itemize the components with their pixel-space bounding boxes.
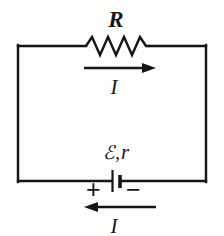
terminal-negative-label: −	[126, 177, 141, 202]
emf-symbol: ℰ	[103, 141, 116, 163]
current-label-top: I	[0, 77, 224, 98]
resistor-zigzag	[86, 37, 150, 55]
emf-label-group: ℰ,r	[0, 142, 224, 163]
resistor-label: R	[0, 8, 224, 31]
circuit-svg	[0, 0, 224, 236]
internal-resistance-label: r	[121, 140, 129, 164]
circuit-diagram-figure: R I ℰ,r + − I	[0, 0, 224, 236]
current-arrow-bottom	[84, 202, 156, 212]
current-label-bottom: I	[0, 216, 224, 236]
current-arrow-top	[84, 63, 156, 73]
terminal-positive-label: +	[86, 177, 101, 202]
